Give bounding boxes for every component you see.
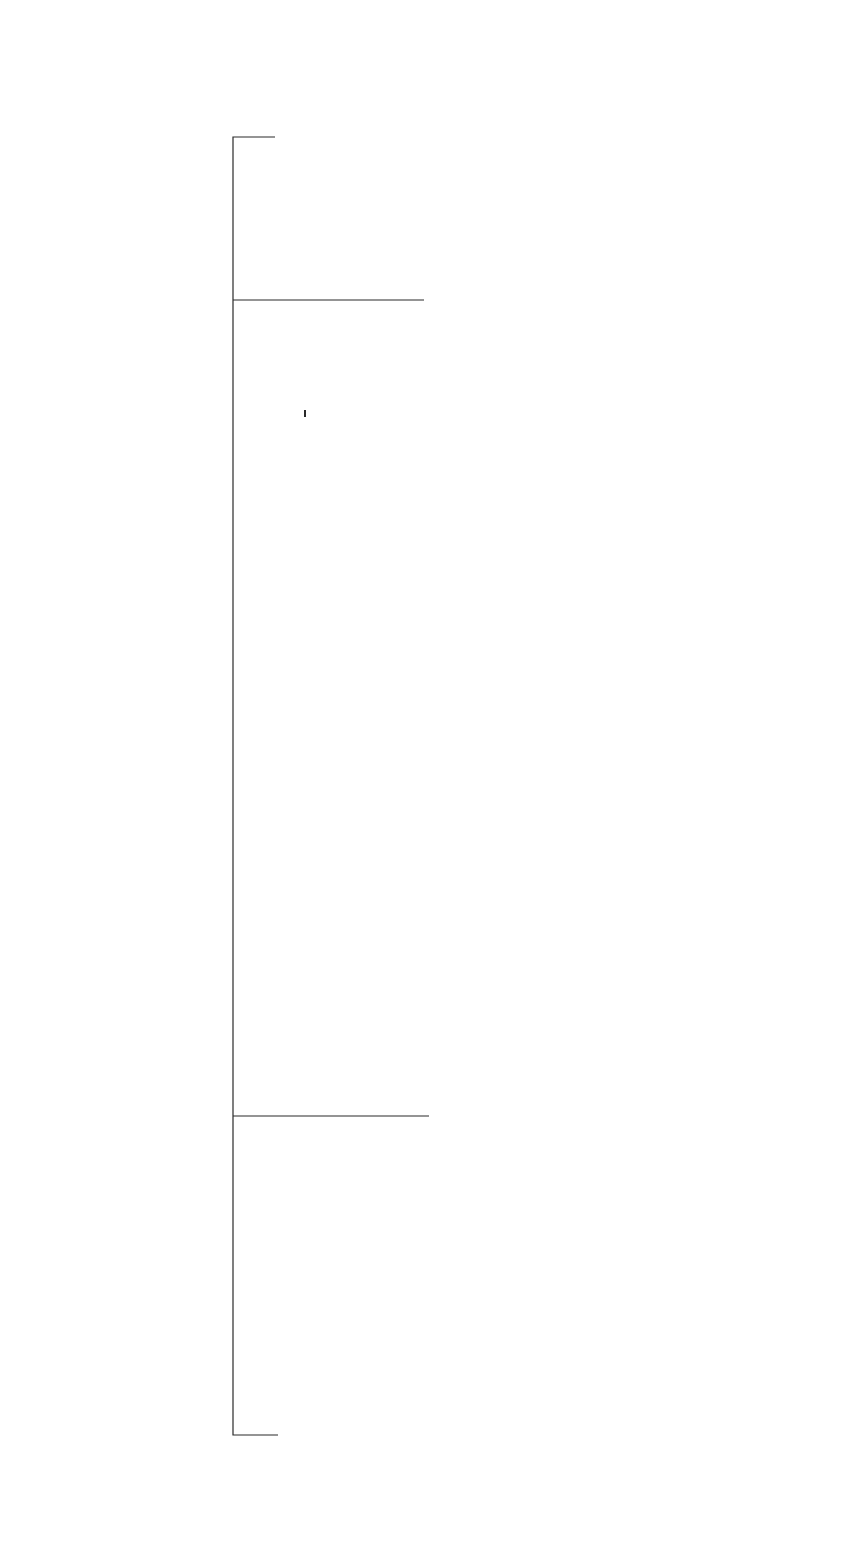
block-definition-diagram-meta-model bbox=[0, 0, 867, 1557]
relationship-left-connector bbox=[233, 137, 278, 1435]
